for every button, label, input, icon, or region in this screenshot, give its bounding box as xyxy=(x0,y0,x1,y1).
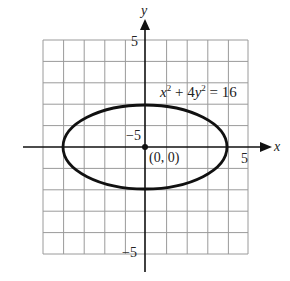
x-axis-label: x xyxy=(274,140,280,154)
y-tick-neg5: −5 xyxy=(122,246,137,260)
x-tick-5: 5 xyxy=(241,152,248,166)
x-tick-neg5: −5 xyxy=(126,129,141,143)
x-axis-arrow-icon xyxy=(260,142,272,152)
y-axis-label: y xyxy=(141,4,147,18)
origin-label: (0, 0) xyxy=(149,151,179,165)
y-axis-arrow-icon xyxy=(140,19,150,30)
equation-label: x2 + 4y2 = 16 xyxy=(160,84,237,100)
eq-mid: + 4 xyxy=(171,84,194,100)
origin-point xyxy=(142,144,148,150)
y-tick-5: 5 xyxy=(131,35,138,49)
eq-x: x xyxy=(160,84,167,100)
chart-canvas xyxy=(0,0,290,281)
eq-end: = 16 xyxy=(206,84,237,100)
